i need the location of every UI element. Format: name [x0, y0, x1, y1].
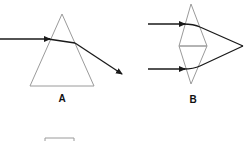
refracted-beam-a: [48, 39, 75, 43]
panel-a: [0, 14, 122, 86]
panel-b: [148, 4, 243, 84]
converging-beam-b-lower: [183, 46, 243, 69]
partial-rectangle: [45, 138, 74, 141]
label-a: A: [58, 93, 65, 104]
label-b: B: [189, 94, 196, 105]
prism-a: [30, 14, 94, 86]
prism-diagram: [0, 0, 248, 141]
partial-figure-bottom: [45, 138, 74, 141]
converging-beam-b-upper: [183, 24, 243, 46]
